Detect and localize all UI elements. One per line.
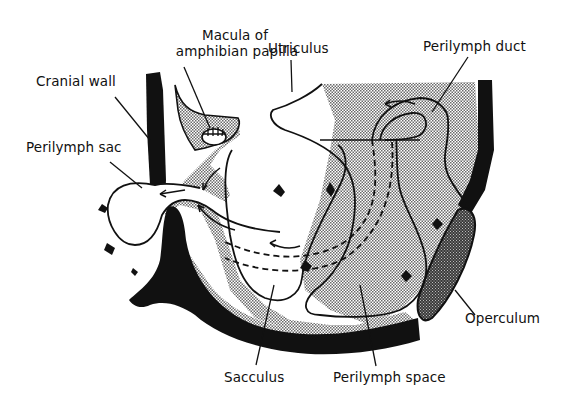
cranial-wall-upper	[146, 72, 166, 200]
perilymph-sac	[108, 183, 280, 245]
label-perilymph-sac: Perilymph sac	[26, 140, 122, 155]
label-macula-line1: Macula of	[192, 28, 278, 43]
label-perilymph-duct: Perilymph duct	[423, 39, 526, 54]
label-cranial-wall: Cranial wall	[36, 74, 116, 89]
label-operculum: Operculum	[465, 311, 540, 326]
stippled-region-right	[300, 82, 482, 325]
label-utriculus: Utriculus	[268, 41, 329, 56]
inner-ear-diagram	[0, 0, 574, 409]
label-sacculus: Sacculus	[224, 370, 284, 385]
label-perilymph-space: Perilymph space	[333, 370, 446, 385]
